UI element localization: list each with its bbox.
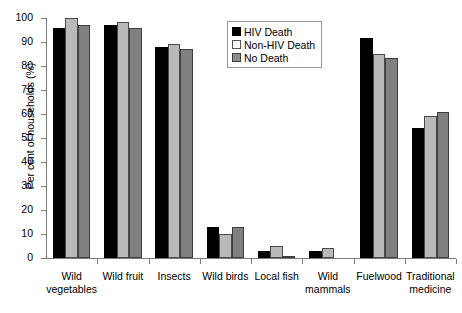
bar <box>168 44 181 258</box>
chart-legend: HIV DeathNon-HIV DeathNo Death <box>227 21 322 68</box>
y-tick-label: 40 <box>21 155 33 167</box>
y-tick: 50 <box>41 138 46 139</box>
bar <box>412 128 425 258</box>
y-tick-label: 90 <box>21 35 33 47</box>
bar <box>270 246 283 258</box>
x-tick <box>200 259 201 264</box>
y-tick-label: 70 <box>21 83 33 95</box>
legend-label: Non-HIV Death <box>244 39 315 51</box>
bar <box>155 47 168 258</box>
y-tick-label: 20 <box>21 203 33 215</box>
y-tick-label: 50 <box>21 131 33 143</box>
y-tick: 90 <box>41 42 46 43</box>
legend-item: No Death <box>232 51 315 64</box>
x-tick <box>354 259 355 264</box>
x-axis-label: Wild mammals <box>302 270 353 295</box>
bar <box>424 116 437 258</box>
legend-item: HIV Death <box>232 25 315 38</box>
y-axis-line <box>46 18 47 259</box>
legend-swatch-icon <box>232 27 241 36</box>
bar <box>78 25 91 258</box>
bar <box>104 25 117 258</box>
y-axis-title: Per cent of households (%) <box>24 26 36 226</box>
bar <box>309 251 322 258</box>
bar <box>360 38 373 258</box>
y-tick: 60 <box>41 114 46 115</box>
x-tick <box>251 259 252 264</box>
x-tick <box>456 259 457 264</box>
bar <box>129 28 142 258</box>
bar <box>117 22 130 258</box>
x-axis-label: Wild vegetables <box>46 270 97 295</box>
x-axis-label: Traditional medicine <box>405 270 456 295</box>
x-tick <box>405 259 406 264</box>
y-tick: 80 <box>41 66 46 67</box>
x-tick <box>302 259 303 264</box>
x-axis-label: Local fish <box>251 270 302 283</box>
bar <box>65 18 78 258</box>
x-axis-label: Insects <box>149 270 200 283</box>
y-tick: 10 <box>41 234 46 235</box>
bar-group <box>53 18 91 258</box>
bar <box>385 58 398 258</box>
y-tick: 0 <box>41 258 46 259</box>
bar <box>219 234 232 258</box>
bar <box>207 227 220 258</box>
y-tick-label: 60 <box>21 107 33 119</box>
y-tick: 70 <box>41 90 46 91</box>
y-tick: 40 <box>41 162 46 163</box>
x-axis-label: Wild fruit <box>97 270 148 283</box>
y-tick: 30 <box>41 186 46 187</box>
x-axis-label: Fuelwood <box>354 270 405 283</box>
bar-group <box>104 18 142 258</box>
x-tick <box>149 259 150 264</box>
bar <box>258 251 271 258</box>
legend-item: Non-HIV Death <box>232 38 315 51</box>
bar <box>232 227 245 258</box>
y-tick-label: 0 <box>27 251 33 263</box>
bar-chart: Per cent of households (%) 0102030405060… <box>0 0 462 313</box>
bar <box>437 112 450 258</box>
legend-swatch-icon <box>232 53 241 62</box>
bar-group <box>412 18 450 258</box>
y-tick-label: 30 <box>21 179 33 191</box>
bar <box>373 54 386 258</box>
y-tick-label: 10 <box>21 227 33 239</box>
legend-label: HIV Death <box>244 26 292 38</box>
y-tick: 20 <box>41 210 46 211</box>
y-tick-label: 100 <box>15 11 33 23</box>
bar <box>180 49 193 258</box>
bar-group <box>155 18 193 258</box>
y-tick: 100 <box>41 18 46 19</box>
y-tick-label: 80 <box>21 59 33 71</box>
x-tick <box>97 259 98 264</box>
legend-label: No Death <box>244 52 288 64</box>
legend-swatch-icon <box>232 40 241 49</box>
bar <box>53 28 66 258</box>
x-axis-label: Wild birds <box>200 270 251 283</box>
bar-group <box>360 18 398 258</box>
bar <box>322 248 335 258</box>
bar <box>283 256 296 258</box>
